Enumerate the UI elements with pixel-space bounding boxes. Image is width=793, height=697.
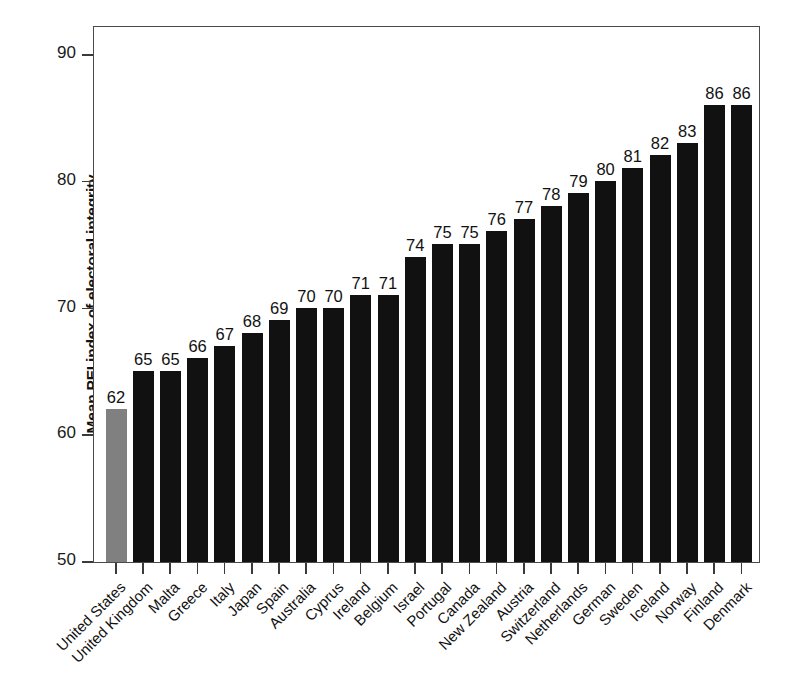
bar-value-label: 70 xyxy=(324,287,342,306)
bar[interactable]: 70 xyxy=(323,308,344,563)
bar[interactable]: 69 xyxy=(269,320,290,562)
bar[interactable]: 70 xyxy=(296,308,317,563)
bar-rect xyxy=(323,308,344,563)
bar-rect xyxy=(296,308,317,563)
bar[interactable]: 86 xyxy=(731,105,752,562)
bar[interactable]: 78 xyxy=(541,206,562,562)
bar-rect xyxy=(650,155,671,562)
y-tick-label: 80 xyxy=(30,170,76,190)
bar-value-label: 71 xyxy=(379,274,397,293)
bar-rect xyxy=(704,105,725,562)
y-tick-label: 50 xyxy=(30,550,76,570)
bar-rect xyxy=(378,295,399,562)
y-tick-label: 60 xyxy=(30,423,76,443)
bar[interactable]: 71 xyxy=(378,295,399,562)
bar-rect xyxy=(595,181,616,562)
plot-area: 6265656667686970707171747575767778798081… xyxy=(93,26,760,563)
y-tick-label: 70 xyxy=(30,297,76,317)
bar-value-label: 77 xyxy=(515,198,533,217)
bar[interactable]: 82 xyxy=(650,155,671,562)
bar-value-label: 82 xyxy=(651,134,669,153)
bar-rect xyxy=(459,244,480,562)
bar-rect xyxy=(541,206,562,562)
bar[interactable]: 75 xyxy=(459,244,480,562)
bar-rect xyxy=(405,257,426,562)
bar-value-label: 78 xyxy=(542,185,560,204)
bar-rect xyxy=(214,346,235,562)
y-tick-mark xyxy=(82,434,93,436)
bar[interactable]: 81 xyxy=(622,168,643,562)
bar[interactable]: 76 xyxy=(486,231,507,562)
bar-value-label: 74 xyxy=(406,236,424,255)
y-tick-label: 90 xyxy=(30,43,76,63)
chart-figure: Mean PEI index of electoral integrity 50… xyxy=(0,0,793,697)
bar-value-label: 65 xyxy=(134,350,152,369)
bar[interactable]: 83 xyxy=(677,143,698,562)
y-tick-mark xyxy=(82,561,93,563)
bar-value-label: 79 xyxy=(569,172,587,191)
bar[interactable]: 71 xyxy=(350,295,371,562)
bar[interactable]: 75 xyxy=(432,244,453,562)
bar[interactable]: 79 xyxy=(568,193,589,562)
bar-rect xyxy=(731,105,752,562)
y-tick-mark xyxy=(82,308,93,310)
bar-rect xyxy=(106,409,127,562)
bar-value-label: 76 xyxy=(488,210,506,229)
bar[interactable]: 67 xyxy=(214,346,235,562)
bar-rect xyxy=(269,320,290,562)
bar[interactable]: 74 xyxy=(405,257,426,562)
bar-value-label: 86 xyxy=(732,84,750,103)
bar-rect xyxy=(677,143,698,562)
bar-value-label: 81 xyxy=(624,147,642,166)
bar-value-label: 62 xyxy=(107,388,125,407)
bar-rect xyxy=(133,371,154,562)
bar-value-label: 86 xyxy=(705,84,723,103)
bar-rect xyxy=(622,168,643,562)
bar-value-label: 66 xyxy=(188,337,206,356)
bar-rect xyxy=(432,244,453,562)
bar-value-label: 75 xyxy=(433,223,451,242)
bar[interactable]: 68 xyxy=(242,333,263,562)
bar[interactable]: 86 xyxy=(704,105,725,562)
bar-value-label: 68 xyxy=(243,312,261,331)
y-tick-mark xyxy=(82,54,93,56)
bar-rect xyxy=(350,295,371,562)
x-tick-mark xyxy=(115,563,117,574)
bar-rect xyxy=(514,219,535,562)
bar[interactable]: 80 xyxy=(595,181,616,562)
bar[interactable]: 77 xyxy=(514,219,535,562)
bar-value-label: 80 xyxy=(596,160,614,179)
bar-rect xyxy=(568,193,589,562)
bar-rect xyxy=(242,333,263,562)
bar-value-label: 71 xyxy=(352,274,370,293)
bar[interactable]: 62 xyxy=(106,409,127,562)
bar-value-label: 69 xyxy=(270,299,288,318)
bar-value-label: 67 xyxy=(216,325,234,344)
bar-value-label: 75 xyxy=(460,223,478,242)
bar-rect xyxy=(486,231,507,562)
bar-value-label: 83 xyxy=(678,122,696,141)
y-tick-mark xyxy=(82,181,93,183)
bar-value-label: 70 xyxy=(297,287,315,306)
bar[interactable]: 65 xyxy=(133,371,154,562)
bar-value-label: 65 xyxy=(161,350,179,369)
